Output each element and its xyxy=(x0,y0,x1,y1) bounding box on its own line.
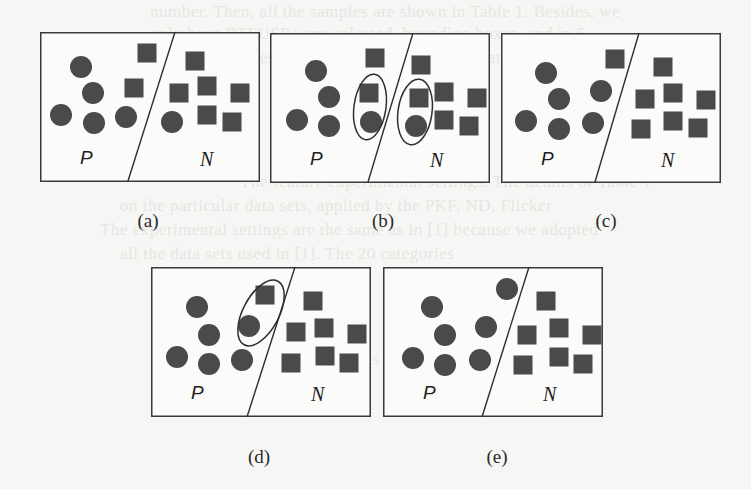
panel-c: PN xyxy=(501,33,721,183)
negative-sample-square xyxy=(138,44,157,63)
positive-sample-circle xyxy=(83,112,105,134)
label-positive: P xyxy=(423,382,436,403)
positive-sample-circle xyxy=(582,112,604,134)
positive-sample-circle xyxy=(318,115,340,137)
negative-sample-square xyxy=(435,83,454,102)
label-positive: P xyxy=(310,148,323,169)
positive-sample-circle xyxy=(405,115,427,137)
positive-sample-circle xyxy=(82,82,104,104)
negative-sample-square xyxy=(125,79,144,98)
positive-sample-circle xyxy=(318,86,340,108)
negative-sample-square xyxy=(435,111,454,130)
negative-sample-square xyxy=(468,89,487,108)
negative-sample-square xyxy=(664,112,683,131)
negative-sample-square xyxy=(348,325,367,344)
negative-sample-square xyxy=(664,84,683,103)
negative-sample-square xyxy=(583,326,602,345)
positive-sample-circle xyxy=(475,316,497,338)
positive-sample-circle xyxy=(198,324,220,346)
negative-sample-square xyxy=(282,354,301,373)
negative-sample-square xyxy=(170,84,189,103)
caption-c: (c) xyxy=(595,210,616,232)
negative-sample-square xyxy=(537,292,556,311)
positive-sample-circle xyxy=(515,110,537,132)
negative-sample-square xyxy=(410,89,429,108)
negative-sample-square xyxy=(231,84,250,103)
bleed-text-line: number. Then, all the samples are shown … xyxy=(150,2,751,22)
positive-sample-circle xyxy=(231,349,253,371)
positive-sample-circle xyxy=(496,278,518,300)
negative-sample-square xyxy=(550,348,569,367)
positive-sample-circle xyxy=(115,106,137,128)
negative-sample-square xyxy=(697,91,716,110)
negative-sample-square xyxy=(636,90,655,109)
caption-d: (d) xyxy=(248,446,270,468)
positive-sample-circle xyxy=(161,111,183,133)
panel-d: PN xyxy=(151,267,371,417)
positive-sample-circle xyxy=(590,80,612,102)
positive-sample-circle xyxy=(421,296,443,318)
negative-sample-square xyxy=(198,77,217,96)
panel-a: PN xyxy=(40,32,260,182)
negative-sample-square xyxy=(340,354,359,373)
label-positive: P xyxy=(191,382,204,403)
label-negative: N xyxy=(199,148,215,170)
panel-e: PN xyxy=(383,267,603,417)
negative-sample-square xyxy=(360,84,379,103)
positive-sample-circle xyxy=(402,347,424,369)
caption-b: (b) xyxy=(372,210,394,232)
bleed-text-line: all the data sets used in [1]. The 20 ca… xyxy=(120,244,751,264)
label-positive: P xyxy=(541,148,554,169)
positive-sample-circle xyxy=(548,118,570,140)
label-negative: N xyxy=(660,149,676,171)
panel-frame xyxy=(384,268,603,417)
positive-sample-circle xyxy=(50,104,72,126)
negative-sample-square xyxy=(460,117,479,136)
negative-sample-square xyxy=(366,49,385,68)
bleed-text-line: The experimental settings are the same a… xyxy=(100,220,751,240)
negative-sample-square xyxy=(550,319,569,338)
negative-sample-square xyxy=(606,50,625,69)
negative-sample-square xyxy=(287,323,306,342)
negative-sample-square xyxy=(316,347,335,366)
positive-sample-circle xyxy=(238,315,260,337)
negative-sample-square xyxy=(412,56,431,75)
negative-sample-square xyxy=(632,120,651,139)
label-negative: N xyxy=(542,383,558,405)
caption-a: (a) xyxy=(137,210,158,232)
positive-sample-circle xyxy=(186,296,208,318)
negative-sample-square xyxy=(304,292,323,311)
negative-sample-square xyxy=(689,119,708,138)
caption-e: (e) xyxy=(486,446,507,468)
negative-sample-square xyxy=(256,286,275,305)
negative-sample-square xyxy=(514,356,533,375)
positive-sample-circle xyxy=(434,354,456,376)
positive-sample-circle xyxy=(548,88,570,110)
negative-sample-square xyxy=(654,58,673,77)
label-positive: P xyxy=(80,147,93,168)
positive-sample-circle xyxy=(286,109,308,131)
positive-sample-circle xyxy=(166,346,188,368)
negative-sample-square xyxy=(198,106,217,125)
negative-sample-square xyxy=(315,319,334,338)
negative-sample-square xyxy=(223,113,242,132)
positive-sample-circle xyxy=(434,324,456,346)
negative-sample-square xyxy=(186,52,205,71)
panel-b: PN xyxy=(270,33,490,183)
positive-sample-circle xyxy=(70,56,92,78)
label-negative: N xyxy=(429,149,445,171)
negative-sample-square xyxy=(518,326,537,345)
negative-sample-square xyxy=(574,355,593,374)
positive-sample-circle xyxy=(469,349,491,371)
positive-sample-circle xyxy=(198,353,220,375)
positive-sample-circle xyxy=(305,60,327,82)
label-negative: N xyxy=(310,383,326,405)
bleed-text-line: on the particular data sets, applied by … xyxy=(120,196,751,216)
positive-sample-circle xyxy=(535,62,557,84)
